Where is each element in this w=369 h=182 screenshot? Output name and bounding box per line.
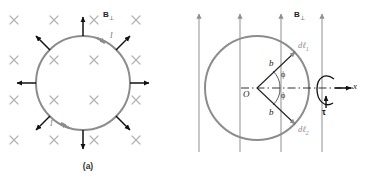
origin-label: O (243, 89, 250, 99)
torque-label: τ (322, 107, 326, 117)
magnetic-field-label-a: B⊥ (103, 10, 114, 21)
radius-label-upper: b (269, 58, 274, 68)
line-element-1-label: dℓ1 (298, 40, 309, 52)
panel-b-canvas (185, 0, 369, 182)
x-axis-label: x (353, 81, 357, 91)
angle-label-lower: ϕ (281, 91, 285, 100)
panel-a-caption: (a) (68, 161, 108, 171)
panel-a-canvas (0, 0, 185, 182)
radius-label-lower: b (269, 107, 274, 117)
figure-panel-b: B⊥ dℓ1 dℓ2 b b O ϕ ϕ x τ (b) (185, 0, 369, 182)
current-label-top: I (110, 31, 113, 40)
line-element-2-label: dℓ2 (298, 124, 309, 136)
current-label-bottom: I (50, 119, 53, 128)
angle-label-upper: ϕ (281, 70, 285, 79)
torque-rotation-icon (317, 76, 334, 108)
current-loop-circle (36, 36, 130, 130)
magnetic-field-label-b: B⊥ (294, 10, 305, 21)
current-direction-arrows (61, 38, 105, 128)
figure-panel-a: B⊥ I I (a) (0, 0, 185, 182)
magnetic-field-into-page-crosses (10, 16, 140, 144)
